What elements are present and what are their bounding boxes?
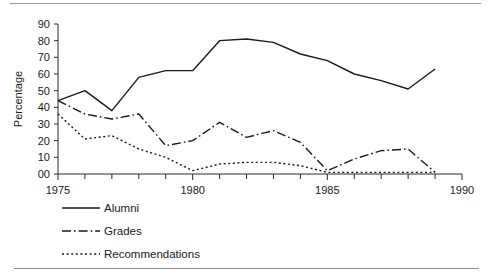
x-tick-label: 1990 (450, 184, 474, 196)
y-tick-label: 40 (38, 101, 50, 113)
y-tick-label: 80 (38, 35, 50, 47)
bottom-divider-rule (14, 268, 479, 269)
x-tick-label: 1975 (46, 184, 70, 196)
legend-group: AlumniGradesRecommendations (62, 202, 200, 260)
plot-area: 001020304050607080901975198019851990Perc… (0, 0, 491, 279)
y-tick-label: 60 (38, 68, 50, 80)
series-line-grades (58, 101, 435, 173)
x-tick-label: 1980 (180, 184, 204, 196)
figure-container: 001020304050607080901975198019851990Perc… (0, 0, 491, 279)
series-line-recommendations (58, 114, 435, 172)
y-tick-label: 20 (38, 135, 50, 147)
y-tick-label: 50 (38, 85, 50, 97)
legend-label-alumni: Alumni (104, 202, 139, 214)
series-line-alumni (58, 39, 435, 111)
data-series-group (58, 39, 435, 172)
y-tick-label: 30 (38, 118, 50, 130)
x-tick-label: 1985 (315, 184, 339, 196)
y-tick-label: 90 (38, 18, 50, 30)
axes-group: 001020304050607080901975198019851990Perc… (12, 18, 474, 196)
y-tick-label: 00 (38, 168, 50, 180)
line-chart-svg: 001020304050607080901975198019851990Perc… (0, 0, 491, 279)
y-axis-title: Percentage (12, 71, 24, 127)
y-tick-label: 10 (38, 151, 50, 163)
legend-label-grades: Grades (104, 225, 142, 237)
legend-label-recommendations: Recommendations (104, 248, 200, 260)
y-tick-label: 70 (38, 51, 50, 63)
